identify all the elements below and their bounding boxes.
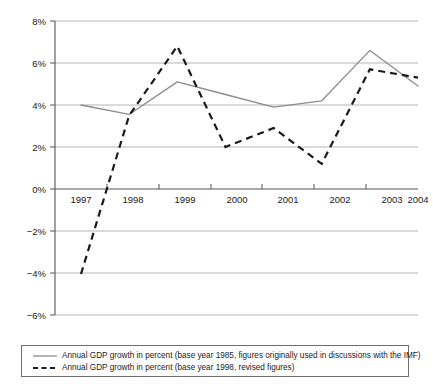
y-axis-ticks [50,21,55,315]
xtick-label-2004: 2004 [407,194,428,205]
ytick-label-minus2: −2% [27,226,47,237]
chart-legend: Annual GDP growth in percent (base year … [21,345,409,377]
gdp-growth-chart-figure: 8% 6% 4% 2% 0% −2% −4% −6% 1997 1998 [0,0,433,391]
xtick-label-2000: 2000 [226,194,247,205]
x-axis-labels: 1997 1998 1999 2000 2001 2002 2003 2004 [70,194,428,205]
ytick-label-2: 2% [32,142,46,153]
xtick-label-2003: 2003 [381,194,402,205]
ytick-label-minus4: −4% [27,268,47,279]
legend-item-solid: Annual GDP growth in percent (base year … [33,350,408,362]
gridlines [55,21,418,315]
xtick-label-2001: 2001 [277,194,298,205]
ytick-label-minus6: −6% [27,310,47,321]
line-chart-svg: 8% 6% 4% 2% 0% −2% −4% −6% 1997 1998 [0,0,433,340]
ytick-label-8: 8% [32,16,46,27]
y-axis-labels: 8% 6% 4% 2% 0% −2% −4% −6% [27,16,47,321]
xtick-label-1998: 1998 [122,194,143,205]
xtick-label-1999: 1999 [174,194,195,205]
chart-plot-area: 8% 6% 4% 2% 0% −2% −4% −6% 1997 1998 [0,0,433,340]
xtick-label-2002: 2002 [329,194,350,205]
legend-swatch-dashed-line-icon [33,363,57,373]
xtick-label-1997: 1997 [70,194,91,205]
legend-label-dashed: Annual GDP growth in percent (base year … [62,363,294,373]
ytick-label-4: 4% [32,100,46,111]
ytick-label-0: 0% [32,184,46,195]
ytick-label-6: 6% [32,58,46,69]
x-axis-ticks [107,184,366,189]
legend-item-dashed: Annual GDP growth in percent (base year … [33,362,408,374]
legend-swatch-solid-line-icon [33,351,57,361]
legend-label-solid: Annual GDP growth in percent (base year … [62,351,420,361]
series-line-dashed [81,46,418,274]
